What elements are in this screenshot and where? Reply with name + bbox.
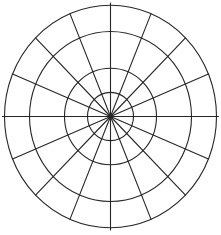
center-point [109, 115, 111, 117]
spoke-135deg [36, 38, 111, 117]
spoke-45deg [111, 38, 186, 117]
spoke-315deg [111, 117, 186, 196]
spoke-225deg [36, 117, 111, 196]
polar-grid-diagram [0, 0, 221, 235]
